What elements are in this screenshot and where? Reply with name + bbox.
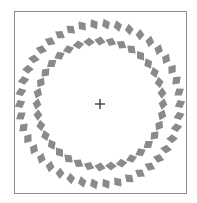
ring-square <box>74 159 84 167</box>
ring-square <box>144 141 153 148</box>
ring-square <box>33 109 42 121</box>
ring-square <box>151 131 159 139</box>
ring-square <box>36 120 45 132</box>
ring-square <box>55 31 65 39</box>
ring-square <box>116 159 128 168</box>
ring-square <box>84 162 95 170</box>
ring-square <box>66 26 75 34</box>
ring-square <box>34 88 42 99</box>
ring-square <box>125 24 134 36</box>
ring-square <box>94 163 105 172</box>
ring-square <box>136 29 145 41</box>
ring-square <box>144 58 152 68</box>
ring-square <box>18 76 29 85</box>
fixation-cross-icon <box>95 99 105 109</box>
ring-square <box>145 162 156 170</box>
ring-square <box>78 22 85 31</box>
ring-square <box>135 169 145 177</box>
ring-square <box>33 98 42 109</box>
ring-square <box>137 51 144 60</box>
ring-square <box>46 161 55 172</box>
ring-square <box>154 44 162 55</box>
ring-square <box>56 148 63 157</box>
ring-square <box>125 175 134 183</box>
ring-square <box>16 112 25 119</box>
ring-square <box>106 38 117 46</box>
ring-square <box>30 144 38 154</box>
ring-square <box>90 19 97 29</box>
ring-square <box>162 54 170 64</box>
ring-square <box>126 154 137 162</box>
ring-square <box>37 153 45 164</box>
ring-square <box>172 76 180 84</box>
ring-square <box>83 37 95 46</box>
ring-square <box>41 130 49 141</box>
ring-square <box>102 19 110 30</box>
ring-square <box>105 162 117 171</box>
ring-square <box>47 60 56 67</box>
ring-square <box>150 67 158 78</box>
ring-square <box>171 123 182 132</box>
ring-square <box>94 37 105 46</box>
ring-square <box>117 41 127 49</box>
ring-square <box>159 98 168 109</box>
ring-square <box>73 40 85 49</box>
ring-square <box>54 52 64 60</box>
ring-square <box>102 179 109 189</box>
ring-square <box>127 45 135 53</box>
ring-square <box>22 65 34 74</box>
ring-square <box>19 124 27 132</box>
ring-square <box>153 154 164 163</box>
ring-square <box>37 78 45 88</box>
ring-square <box>155 77 164 89</box>
ring-square <box>15 100 25 108</box>
ring-square <box>28 54 40 63</box>
ring-square <box>158 87 167 99</box>
ring-square <box>78 176 87 187</box>
ring-square <box>66 173 75 185</box>
ring-square <box>175 100 185 108</box>
ring-square <box>48 139 56 149</box>
ring-square <box>36 45 47 54</box>
ring-square <box>160 145 172 154</box>
ring-square <box>155 121 163 131</box>
ring-square <box>145 36 154 47</box>
ring-square <box>174 89 183 96</box>
ring-square <box>45 37 56 45</box>
ring-square <box>166 134 178 143</box>
ring-square <box>114 20 123 31</box>
ring-square <box>90 178 98 189</box>
ring-square <box>15 88 26 96</box>
ring-square <box>114 178 121 187</box>
ring-square <box>174 112 185 120</box>
ring-square <box>135 148 145 156</box>
ring-square <box>158 110 166 121</box>
ring-square <box>24 134 31 143</box>
ring-square <box>63 45 74 53</box>
ring-square <box>64 155 72 163</box>
ring-square <box>168 65 175 74</box>
ring-square <box>56 167 65 179</box>
ring-square <box>41 68 49 76</box>
pinna-illusion-figure <box>0 0 197 203</box>
